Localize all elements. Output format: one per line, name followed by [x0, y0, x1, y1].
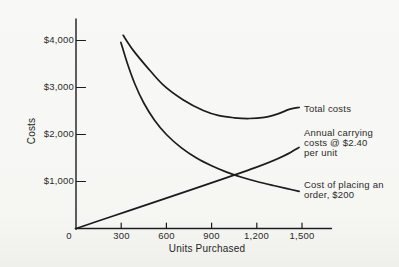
x-tick-label-0: 0 [47, 231, 91, 242]
x-tick-label-1200: 1,200 [235, 231, 279, 242]
y-tick-label-4000: $4,000 [30, 35, 74, 46]
x-tick-label-300: 300 [100, 231, 144, 242]
ordering-cost-label: Cost of placing an order, $200 [304, 180, 384, 200]
x-axis-title: Units Purchased [147, 244, 267, 254]
y-tick-label-3000: $3,000 [30, 82, 74, 93]
series-cost-of-placing-an-order-200 [121, 42, 299, 191]
carrying-costs-label: Annual carrying costs @ $2.40 per unit [304, 128, 373, 159]
y-axis-title: Costs [27, 111, 39, 151]
x-tick-label-1500: 1,500 [280, 231, 324, 242]
series-annual-carrying-costs-2-40-per-unit [76, 147, 299, 228]
x-tick-label-900: 900 [190, 231, 234, 242]
series-total-costs [123, 35, 299, 118]
x-tick-label-600: 600 [145, 231, 189, 242]
eoq-cost-chart: $4,000 $3,000 $2,000 $1,000 0 300 600 90… [0, 0, 399, 267]
y-tick-label-1000: $1,000 [30, 176, 74, 187]
total-costs-label: Total costs [304, 104, 351, 114]
